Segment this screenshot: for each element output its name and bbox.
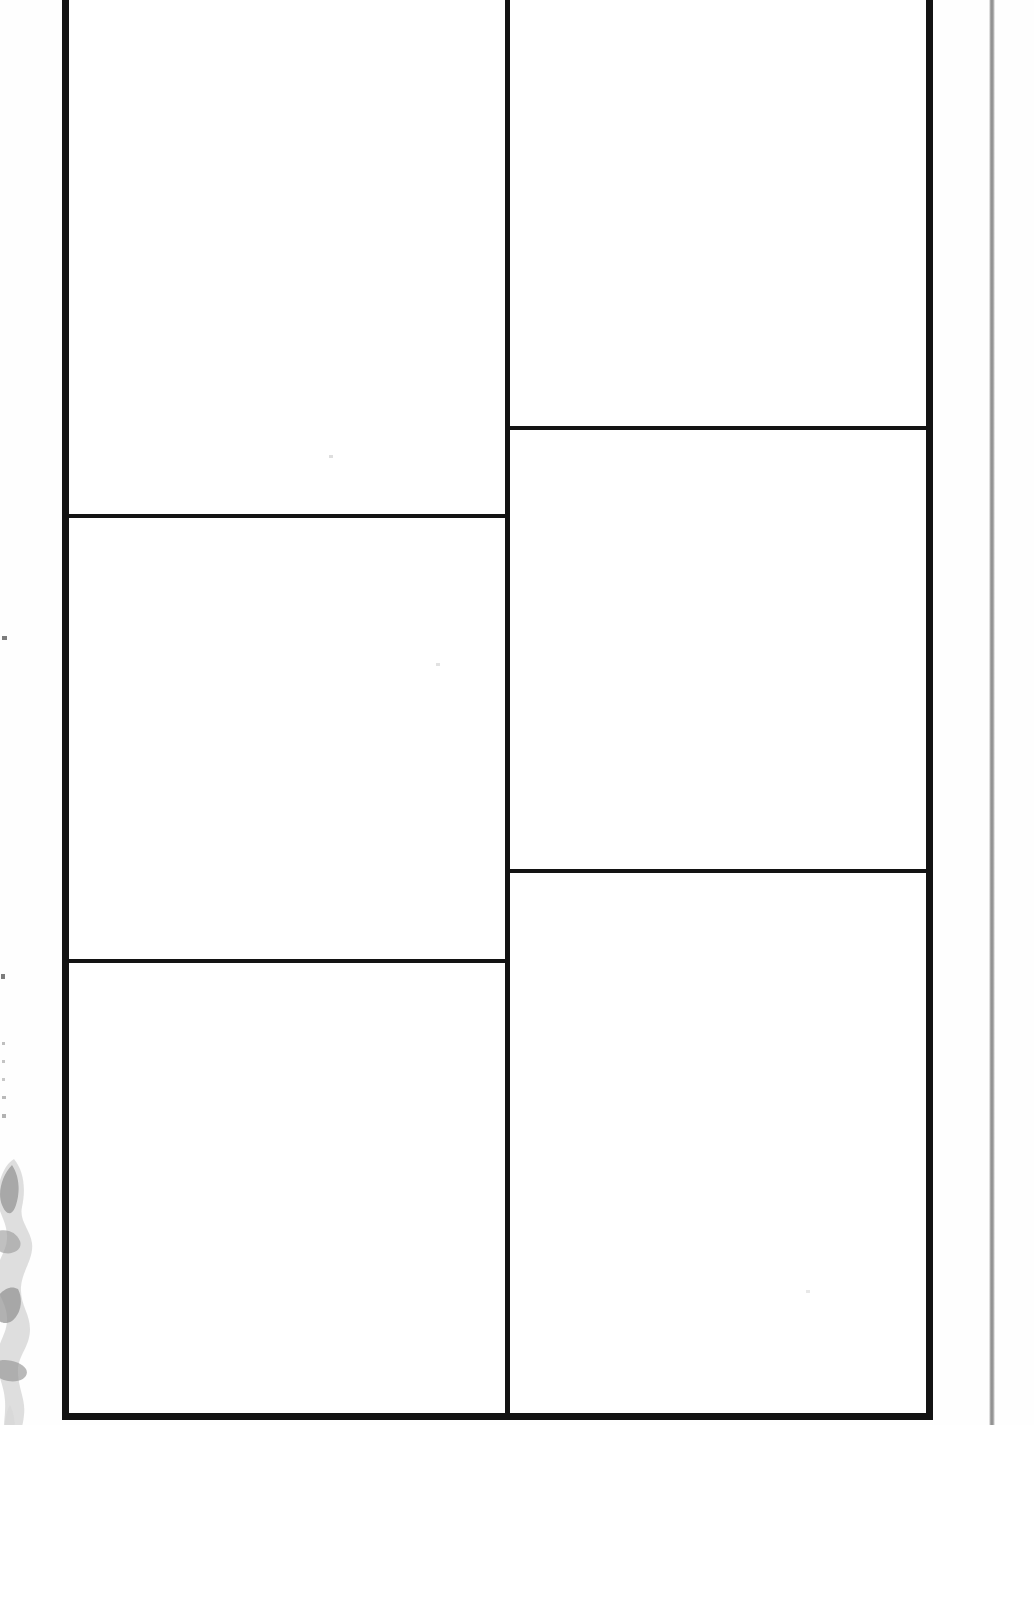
- scan-speck: [1, 974, 5, 979]
- scan-speck: [2, 1078, 5, 1081]
- scan-speck: [2, 636, 7, 640]
- table-cell-left-2[interactable]: [69, 518, 505, 959]
- page-bottom-margin: [0, 1425, 1034, 1599]
- form-table-frame: [62, 0, 933, 1420]
- scanned-page: [0, 0, 1034, 1599]
- scan-speck: [2, 1114, 6, 1118]
- table-cell-left-3[interactable]: [69, 963, 505, 1413]
- scan-speck: [2, 1060, 5, 1063]
- scan-speck: [2, 1042, 5, 1045]
- table-cell-right-3[interactable]: [510, 873, 933, 1413]
- scan-speck: [2, 1096, 6, 1099]
- scan-edge-line-artifact: [989, 0, 995, 1576]
- scan-smudge-artifact: [0, 1155, 50, 1445]
- table-cell-left-1[interactable]: [69, 0, 505, 514]
- table-cell-right-1[interactable]: [510, 0, 933, 426]
- table-cell-right-2[interactable]: [510, 430, 933, 869]
